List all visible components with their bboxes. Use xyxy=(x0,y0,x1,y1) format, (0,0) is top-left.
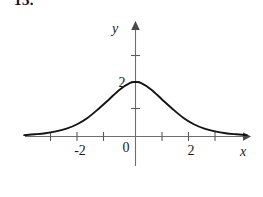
x-axis-label: x xyxy=(239,144,247,159)
y-axis-label: y xyxy=(110,21,119,36)
y-axis-arrowhead xyxy=(131,21,140,30)
x-axis-arrowhead xyxy=(243,132,251,141)
x-tick-label-neg2: -2 xyxy=(74,143,86,158)
y-tick-label-2: 2 xyxy=(119,75,126,90)
figure-container: 13. y x 2 -2 2 0 xyxy=(0,0,263,197)
x-tick-label-2: 2 xyxy=(188,143,195,158)
origin-label: 0 xyxy=(123,140,130,155)
graph-plot: y x 2 -2 2 0 xyxy=(0,0,263,197)
